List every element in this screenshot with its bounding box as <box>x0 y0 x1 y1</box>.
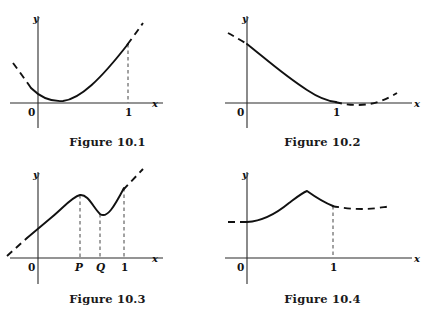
y-axis-label: y <box>241 13 249 24</box>
figure-10-1-plot: y x 0 1 <box>0 0 215 157</box>
x-axis-label: x <box>413 253 421 264</box>
figure-panel-10-3: y x 0 P Q 1 Figure 10.3 <box>0 157 215 314</box>
curve-solid <box>27 188 124 238</box>
curve-left-dashed <box>13 63 31 88</box>
curve-left-dashed <box>7 238 27 256</box>
curve-solid <box>31 44 128 101</box>
figure-caption: Figure 10.4 <box>215 292 429 306</box>
curve-right-dashed <box>123 169 143 190</box>
curve-right-dashed <box>127 23 143 45</box>
tick-label-origin: 0 <box>237 261 244 273</box>
x-axis-label: x <box>413 98 421 109</box>
curve-solid <box>247 191 333 222</box>
y-axis-label: y <box>32 13 40 24</box>
y-axis-label: y <box>32 169 40 180</box>
x-axis-label: x <box>151 253 159 264</box>
curve-solid <box>247 44 336 102</box>
figure-panel-10-2: y x 0 1 Figure 10.2 <box>215 0 429 157</box>
tick-label-x-1: 1 <box>330 261 337 273</box>
figure-10-2-plot: y x 0 1 <box>215 0 429 157</box>
tick-label-Q: Q <box>96 261 105 273</box>
figure-caption: Figure 10.2 <box>215 135 429 149</box>
tick-label-x-1: 1 <box>125 106 132 118</box>
curve-left-dashed <box>228 33 247 44</box>
figure-10-3-plot: y x 0 P Q 1 <box>0 157 215 314</box>
tick-label-origin: 0 <box>28 261 35 273</box>
tick-label-origin: 0 <box>237 106 244 118</box>
curve-right-dashed <box>332 206 390 209</box>
y-axis-label: y <box>241 169 249 180</box>
figure-10-4-plot: y x 0 1 <box>215 157 429 314</box>
tick-label-x-1: 1 <box>333 106 340 118</box>
x-axis-label: x <box>151 98 159 109</box>
figure-panel-10-4: y x 0 1 Figure 10.4 <box>215 157 429 314</box>
figure-caption: Figure 10.3 <box>0 292 215 306</box>
figure-caption: Figure 10.1 <box>0 135 215 149</box>
tick-label-P: P <box>74 261 84 273</box>
tick-label-origin: 0 <box>28 106 35 118</box>
tick-label-x-1: 1 <box>121 261 128 273</box>
figure-panel-10-1: y x 0 1 Figure 10.1 <box>0 0 215 157</box>
figure-sheet: y x 0 1 Figure 10.1 y x 0 1 Figure 10.2 <box>0 0 429 314</box>
